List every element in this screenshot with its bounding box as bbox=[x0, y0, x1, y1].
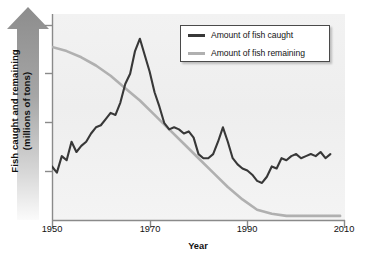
figure-fish-catch-chart: Fish caught and remaining (millions of t… bbox=[0, 0, 365, 265]
legend-swatch-fish-remaining bbox=[188, 52, 205, 55]
legend-label-fish-caught: Amount of fish caught bbox=[211, 30, 293, 40]
x-tick-label-1950: 1950 bbox=[42, 224, 63, 234]
legend-label-fish-remaining: Amount of fish remaining bbox=[211, 48, 305, 58]
x-tick-label-1970: 1970 bbox=[140, 224, 161, 234]
series-line-fish-remaining bbox=[52, 47, 340, 216]
x-tick-label-1990: 1990 bbox=[237, 224, 258, 234]
legend-item-fish-remaining[interactable]: Amount of fish remaining bbox=[181, 44, 329, 62]
x-tick-label-2010: 2010 bbox=[334, 224, 355, 234]
legend-swatch-fish-caught bbox=[188, 34, 205, 37]
legend-item-fish-caught[interactable]: Amount of fish caught bbox=[181, 26, 329, 44]
x-axis-title: Year bbox=[188, 241, 208, 251]
chart-legend[interactable]: Amount of fish caught Amount of fish rem… bbox=[180, 25, 330, 62]
